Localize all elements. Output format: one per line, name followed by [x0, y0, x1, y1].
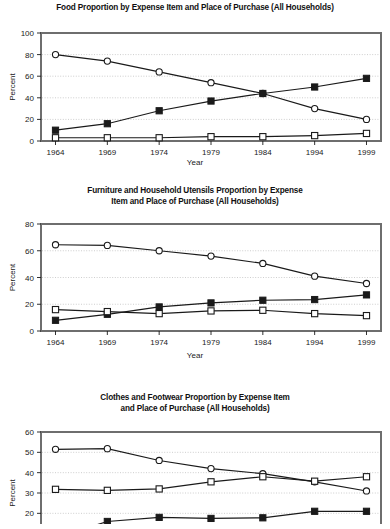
marker-filled-square-1979	[208, 98, 214, 104]
marker-filled-square-1964	[52, 317, 58, 323]
marker-filled-square-1974	[156, 514, 162, 520]
x-tick-label-1964: 1964	[47, 338, 65, 347]
marker-open-square-1974	[156, 486, 162, 492]
marker-open-square-1964	[52, 307, 58, 313]
marker-open-circle-1974	[156, 69, 162, 75]
y-tick-label-40: 40	[25, 274, 34, 283]
marker-filled-square-1974	[156, 304, 162, 310]
marker-open-circle-1999	[363, 280, 369, 286]
marker-open-circle-1999	[363, 488, 369, 494]
y-tick-label-60: 60	[25, 428, 34, 437]
plot-frame	[41, 33, 381, 141]
y-tick-label-80: 80	[25, 51, 34, 60]
marker-open-square-1994	[312, 311, 318, 317]
y-tick-label-40: 40	[25, 469, 34, 478]
marker-open-square-1994	[312, 478, 318, 484]
marker-open-square-1969	[104, 487, 110, 493]
marker-open-circle-1964	[52, 242, 58, 248]
marker-open-square-1979	[208, 134, 214, 140]
chart-title-food: Food Proportion by Expense Item and Plac…	[0, 0, 390, 13]
marker-open-circle-1994	[312, 273, 318, 279]
chart-figure-food: Food Proportion by Expense Item and Plac…	[0, 0, 390, 165]
marker-filled-square-1999	[363, 292, 369, 298]
series-line-open-circle	[56, 55, 367, 120]
marker-open-circle-1979	[208, 466, 214, 472]
chart-plot-clothes: 0102030405060Percent	[0, 414, 390, 524]
chart-figure-clothes: Clothes and Footwear Proportion by Expen…	[0, 375, 390, 529]
marker-open-circle-1994	[312, 106, 318, 112]
x-tick-label-1999: 1999	[358, 338, 376, 347]
y-axis-title: Percent	[8, 72, 17, 100]
marker-open-square-1984	[260, 307, 266, 313]
marker-open-circle-1969	[104, 446, 110, 452]
marker-open-square-1999	[363, 474, 369, 480]
chart-title-clothes-line1: Clothes and Footwear Proportion by Expen…	[0, 375, 390, 403]
marker-filled-square-1979	[208, 515, 214, 521]
chart-plot-food: 0204060801001964196919741979198419941999…	[0, 13, 390, 161]
x-tick-label-1984: 1984	[254, 148, 272, 157]
marker-filled-square-1984	[260, 90, 266, 96]
marker-open-square-1984	[260, 474, 266, 480]
x-tick-label-1984: 1984	[254, 338, 272, 347]
y-tick-label-40: 40	[25, 94, 34, 103]
y-tick-label-100: 100	[21, 29, 35, 38]
marker-open-circle-1974	[156, 248, 162, 254]
marker-open-square-1999	[363, 313, 369, 319]
y-tick-label-0: 0	[30, 327, 35, 336]
chart-svg-food: 0204060801001964196919741979198419941999…	[0, 13, 390, 161]
marker-open-circle-1964	[52, 52, 58, 58]
marker-open-square-1969	[104, 135, 110, 141]
marker-filled-square-1979	[208, 300, 214, 306]
x-tick-label-1994: 1994	[306, 338, 324, 347]
y-tick-label-20: 20	[25, 115, 34, 124]
marker-filled-square-1994	[312, 296, 318, 302]
chart-title-furniture-line2: Item and Place of Purchase (All Househol…	[0, 196, 390, 207]
marker-open-circle-1969	[104, 58, 110, 64]
marker-filled-square-1964	[52, 127, 58, 133]
marker-open-circle-1984	[260, 260, 266, 266]
marker-filled-square-1969	[104, 518, 110, 524]
x-tick-label-1969: 1969	[98, 148, 116, 157]
marker-open-circle-1974	[156, 457, 162, 463]
marker-open-circle-1999	[363, 116, 369, 122]
x-tick-label-1979: 1979	[202, 148, 220, 157]
chart-svg-furniture: 0204060801964196919741979198419941999Per…	[0, 207, 390, 354]
chart-title-clothes-line2: and Place of Purchase (All Households)	[0, 403, 390, 414]
x-tick-label-1974: 1974	[150, 148, 168, 157]
x-tick-label-1964: 1964	[47, 148, 65, 157]
plot-frame	[41, 432, 381, 524]
y-tick-label-20: 20	[25, 300, 34, 309]
marker-open-square-1974	[156, 311, 162, 317]
marker-filled-square-1974	[156, 108, 162, 114]
y-tick-label-0: 0	[30, 137, 35, 146]
x-tick-label-1974: 1974	[150, 338, 168, 347]
y-tick-label-60: 60	[25, 247, 34, 256]
marker-filled-square-1969	[104, 121, 110, 127]
marker-open-circle-1969	[104, 242, 110, 248]
x-tick-label-1999: 1999	[358, 148, 376, 157]
marker-open-square-1979	[208, 308, 214, 314]
chart-svg-clothes: 0102030405060Percent	[0, 414, 390, 524]
marker-filled-square-1999	[363, 75, 369, 81]
chart-figure-furniture: Furniture and Household Utensils Proport…	[0, 165, 390, 375]
y-tick-label-30: 30	[25, 489, 34, 498]
marker-open-square-1984	[260, 134, 266, 140]
marker-filled-square-1994	[312, 508, 318, 514]
marker-open-square-1974	[156, 135, 162, 141]
marker-filled-square-1984	[260, 297, 266, 303]
marker-filled-square-1999	[363, 508, 369, 514]
y-tick-label-60: 60	[25, 72, 34, 81]
x-tick-label-1994: 1994	[306, 148, 324, 157]
y-tick-label-50: 50	[25, 448, 34, 457]
marker-open-circle-1964	[52, 446, 58, 452]
marker-filled-square-1984	[260, 515, 266, 521]
y-tick-label-80: 80	[25, 220, 34, 229]
x-tick-label-1969: 1969	[98, 338, 116, 347]
chart-plot-furniture: 0204060801964196919741979198419941999Per…	[0, 207, 390, 354]
marker-open-square-1979	[208, 479, 214, 485]
marker-open-square-1964	[52, 486, 58, 492]
marker-filled-square-1994	[312, 84, 318, 90]
y-axis-title: Percent	[8, 478, 17, 506]
x-tick-label-1979: 1979	[202, 338, 220, 347]
marker-open-square-1999	[363, 130, 369, 136]
